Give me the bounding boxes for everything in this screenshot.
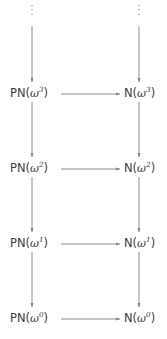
omega-exponent: 1 <box>146 235 151 244</box>
omega-symbol: ω1 <box>137 237 151 250</box>
node-n-omega-2: N(ω2) <box>124 163 155 175</box>
omega-exponent: 2 <box>146 160 151 169</box>
node-pn-omega-1: PN(ω1) <box>10 238 48 250</box>
omega-symbol: ω0 <box>137 312 151 325</box>
node-n-omega-0: N(ω0) <box>124 313 155 325</box>
omega-symbol: ω1 <box>30 237 44 250</box>
node-pn-omega-2: PN(ω2) <box>10 163 48 175</box>
node-n-omega-1: N(ω1) <box>124 238 155 250</box>
omega-symbol: ω3 <box>30 87 44 100</box>
omega-symbol: ω2 <box>137 162 151 175</box>
omega-exponent: 0 <box>39 310 44 319</box>
omega-exponent: 3 <box>39 85 44 94</box>
vertical-ellipsis-left: · · · <box>31 4 34 17</box>
omega-symbol: ω3 <box>137 87 151 100</box>
node-pn-omega-3: PN(ω3) <box>10 88 48 100</box>
commutative-diagram: · · · · · · PN(ω3) N(ω3) PN(ω2) N(ω2) PN… <box>0 0 167 339</box>
omega-exponent: 3 <box>146 85 151 94</box>
omega-exponent: 2 <box>39 160 44 169</box>
omega-symbol: ω0 <box>30 312 44 325</box>
ellipsis-dot: · <box>31 13 34 17</box>
omega-symbol: ω2 <box>30 162 44 175</box>
vertical-ellipsis-right: · · · <box>138 4 141 17</box>
node-pn-omega-0: PN(ω0) <box>10 313 48 325</box>
omega-exponent: 0 <box>146 310 151 319</box>
node-n-omega-3: N(ω3) <box>124 88 155 100</box>
omega-exponent: 1 <box>39 235 44 244</box>
ellipsis-dot: · <box>138 13 141 17</box>
